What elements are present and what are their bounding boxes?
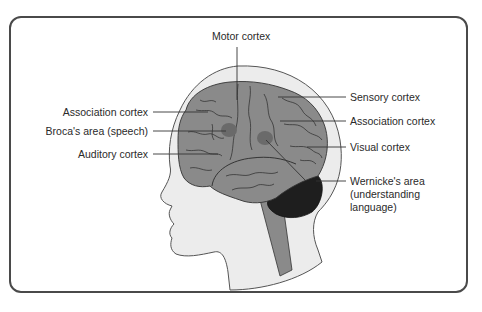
label-motor-cortex: Motor cortex: [212, 30, 270, 42]
label-visual-cortex: Visual cortex: [350, 141, 410, 153]
visual-area-highlight: [257, 131, 273, 145]
label-brocas-area: Broca's area (speech): [28, 125, 148, 137]
label-sensory-cortex: Sensory cortex: [350, 91, 420, 103]
label-auditory-cortex: Auditory cortex: [48, 148, 148, 160]
label-association-cortex-left: Association cortex: [38, 106, 148, 118]
label-wernickes-area: Wernicke's area (understanding language): [350, 175, 425, 214]
brocas-area-highlight: [221, 123, 237, 137]
label-association-cortex-right: Association cortex: [350, 115, 435, 127]
